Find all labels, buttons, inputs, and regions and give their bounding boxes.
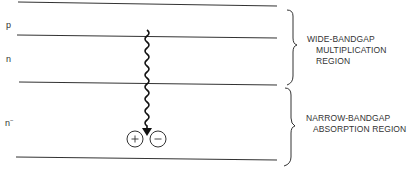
region-line-2: ABSORPTION REGION xyxy=(306,124,406,135)
layer-label-p: p xyxy=(6,21,11,30)
photodiode-structure-diagram xyxy=(0,0,418,172)
boundary-line-top xyxy=(18,2,277,6)
region-label-multiplication: WIDE-BANDGAP MULTIPLICATION REGION xyxy=(307,34,387,67)
region-label-absorption: NARROW-BANDGAP ABSORPTION REGION xyxy=(306,113,406,135)
layer-label-n-text: n xyxy=(6,54,11,64)
layer-label-n-minus-superscript: − xyxy=(10,117,14,123)
layer-label-n: n xyxy=(6,55,11,64)
region-line-2: MULTIPLICATION xyxy=(307,45,387,56)
layer-label-n-minus: n− xyxy=(5,117,14,128)
boundary-line-bottom xyxy=(16,157,277,160)
layer-label-p-text: p xyxy=(6,20,11,30)
hole-carrier-icon xyxy=(127,131,143,147)
brace-multiplication-region xyxy=(287,10,297,85)
region-line-1: WIDE-BANDGAP xyxy=(307,34,387,45)
electron-carrier-icon xyxy=(150,131,166,147)
layer-boundaries xyxy=(16,2,277,160)
region-line-3: REGION xyxy=(307,56,387,67)
brace-absorption-region xyxy=(284,88,295,166)
region-line-1: NARROW-BANDGAP xyxy=(306,113,406,124)
